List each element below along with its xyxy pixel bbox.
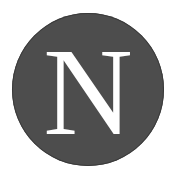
- logo-letter: N: [43, 31, 133, 155]
- logo-circle-badge: N: [12, 13, 164, 166]
